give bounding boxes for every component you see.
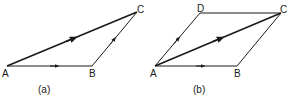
figure-a-triangle-law: A B C (a): [2, 4, 144, 95]
point-label-b: B: [89, 68, 96, 79]
point-label-c: C: [280, 4, 287, 15]
vector-addition-diagram: A B C (a) A B C D (b): [0, 0, 288, 99]
point-label-b: B: [234, 68, 241, 79]
figure-b-parallelogram-law: A B C D (b): [150, 3, 287, 95]
point-label-c: C: [137, 4, 144, 15]
edge-bc: [237, 13, 281, 66]
arrow-head-ac-icon: [66, 38, 74, 41]
arrow-head-ac-icon: [213, 38, 221, 41]
point-label-d: D: [197, 3, 204, 14]
arrow-head-bc-icon: [110, 39, 115, 44]
arrow-head-ad-icon: [174, 38, 179, 43]
figure-caption-a: (a): [38, 84, 50, 95]
point-label-a: A: [150, 68, 157, 79]
point-label-a: A: [2, 68, 9, 79]
figure-caption-b: (b): [193, 84, 205, 95]
